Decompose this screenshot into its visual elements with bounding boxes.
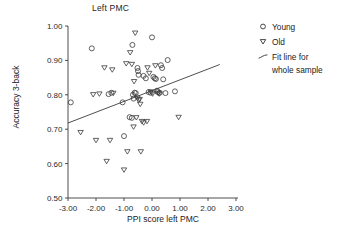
data-point [122, 134, 127, 139]
circle-open-icon [258, 21, 272, 32]
data-point [107, 138, 112, 142]
legend-label-fit-line: Fit line for whole sample [272, 51, 350, 76]
data-point [121, 168, 126, 172]
y-tick-label: 1.00 [47, 22, 63, 31]
data-point [97, 92, 102, 96]
x-tick-label: -1.00 [115, 204, 134, 213]
x-tick-label: 2.00 [200, 204, 216, 213]
y-axis-ticks: 0.500.600.700.800.901.00 [47, 22, 68, 203]
legend-label-old: Old [272, 36, 350, 49]
data-point [133, 31, 138, 35]
data-point [124, 62, 129, 66]
data-point [163, 91, 168, 96]
data-point [165, 58, 170, 63]
legend-label-young: Young [272, 21, 350, 34]
x-tick-label: 1.00 [172, 204, 188, 213]
line-segment-icon [258, 51, 272, 62]
data-point [138, 150, 143, 154]
y-tick-label: 0.60 [47, 160, 63, 169]
x-tick-label: 0.00 [144, 204, 160, 213]
data-point [127, 51, 132, 55]
x-tick-label: -3.00 [59, 204, 78, 213]
chart-legend: Young Old Fit line for whole sample [258, 21, 350, 79]
data-point [161, 77, 166, 82]
x-tick-label: -2.00 [87, 204, 106, 213]
data-point [172, 89, 177, 94]
y-axis-label: Accuracy 3-back [11, 37, 21, 157]
y-tick-label: 0.80 [47, 91, 63, 100]
data-point [125, 150, 130, 154]
data-point [153, 64, 158, 68]
data-point [91, 93, 96, 97]
data-point [176, 115, 181, 119]
x-axis-ticks: -3.00-2.00-1.000.001.002.003.00 [59, 198, 244, 213]
y-tick-label: 0.70 [47, 125, 63, 134]
data-point [104, 159, 109, 163]
data-point [102, 66, 107, 70]
data-point [78, 130, 83, 134]
data-point [130, 42, 135, 47]
data-point [129, 62, 134, 66]
data-point [138, 102, 143, 106]
legend-item-old: Old [258, 36, 350, 49]
triangle-down-open-icon [258, 36, 272, 47]
axes [68, 26, 238, 198]
data-point [89, 46, 94, 51]
x-axis-label: PPI score left PMC [88, 214, 238, 224]
data-point [68, 100, 73, 105]
data-point [131, 125, 136, 129]
data-point [110, 68, 115, 72]
data-point [147, 71, 152, 75]
legend-item-young: Young [258, 21, 350, 34]
data-point [145, 66, 150, 70]
data-point [93, 138, 98, 142]
x-tick-label: 3.00 [228, 204, 244, 213]
y-tick-label: 0.50 [47, 194, 63, 203]
y-tick-label: 0.90 [47, 56, 63, 65]
data-point [150, 35, 155, 40]
legend-item-fit-line: Fit line for whole sample [258, 51, 350, 76]
data-point [131, 80, 136, 84]
series-old-points [78, 31, 181, 172]
scatter-plot-figure: Left PMC -3.00-2.00-1.000.001.002.003.00… [0, 0, 350, 236]
